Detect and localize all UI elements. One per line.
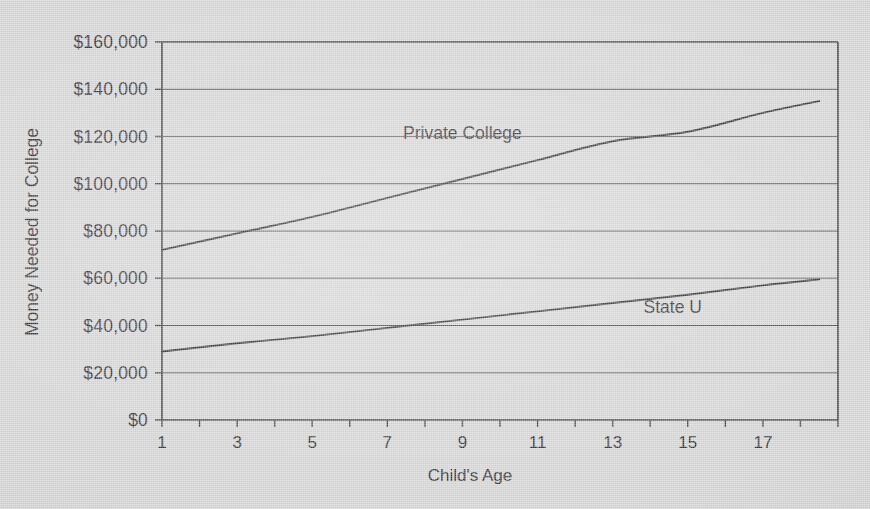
series-label: Private College: [403, 123, 522, 143]
y-axis-title: Money Needed for College: [22, 128, 42, 336]
series-label: State U: [644, 297, 702, 317]
y-tick-label: $120,000: [73, 127, 148, 147]
x-tick-group: [162, 420, 838, 427]
x-tick-label: 13: [603, 433, 622, 452]
line-chart: $0$20,000$40,000$60,000$80,000$100,000$1…: [0, 0, 870, 509]
x-tick-label: 17: [753, 433, 772, 452]
x-tick-label: 3: [232, 433, 241, 452]
series-line: [162, 279, 819, 351]
x-axis-title: Child's Age: [428, 466, 513, 485]
x-tick-label: 5: [307, 433, 316, 452]
y-tick-label: $160,000: [73, 32, 148, 52]
y-tick-label: $40,000: [83, 316, 148, 336]
y-tick-label: $0: [128, 410, 148, 430]
y-tick-label: $100,000: [73, 174, 148, 194]
y-tick-label: $60,000: [83, 268, 148, 288]
y-tick-label: $140,000: [73, 79, 148, 99]
y-tick-label-group: $0$20,000$40,000$60,000$80,000$100,000$1…: [73, 32, 148, 430]
x-tick-label-group: 1357911131517: [157, 433, 772, 452]
x-tick-label: 11: [529, 433, 547, 452]
y-tick-label: $80,000: [83, 221, 148, 241]
y-tick-group: [155, 42, 162, 420]
chart-page: $0$20,000$40,000$60,000$80,000$100,000$1…: [0, 0, 870, 509]
x-tick-label: 9: [458, 433, 467, 452]
x-tick-label: 7: [383, 433, 392, 452]
x-tick-label: 1: [157, 433, 166, 452]
x-tick-label: 15: [678, 433, 697, 452]
series-annotation-group: Private CollegeState U: [403, 123, 702, 317]
y-tick-label: $20,000: [83, 363, 148, 383]
